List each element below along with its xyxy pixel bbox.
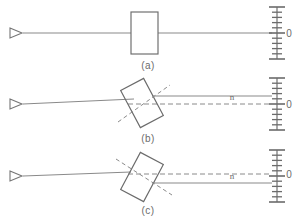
diagram-group: 0(a)0n(b)0n(c) xyxy=(10,7,292,216)
laser-source-icon xyxy=(10,28,22,38)
panel-c: 0n(c) xyxy=(10,150,292,216)
normal-label: n xyxy=(230,92,235,102)
laser-source-icon xyxy=(10,171,22,181)
panel-caption-b: (b) xyxy=(141,133,154,144)
glass-plate xyxy=(131,12,158,54)
panel-caption-c: (c) xyxy=(142,205,155,216)
figure-canvas: 0(a)0n(b)0n(c) xyxy=(0,0,307,222)
glass-plate xyxy=(121,78,164,127)
incident-beam xyxy=(23,99,134,104)
scale-zero-label: 0 xyxy=(286,99,292,110)
scale-zero-label: 0 xyxy=(286,28,292,39)
panel-caption-a: (a) xyxy=(141,60,154,71)
glass-plate xyxy=(121,152,164,201)
panel-b: 0n(b) xyxy=(10,78,292,144)
laser-source-icon xyxy=(10,99,22,109)
optics-figure: 0(a)0n(b)0n(c) xyxy=(0,0,307,222)
incident-beam xyxy=(23,172,131,176)
normal-label: n xyxy=(230,171,235,181)
scale-zero-label: 0 xyxy=(286,169,292,180)
panel-a: 0(a) xyxy=(10,7,292,71)
